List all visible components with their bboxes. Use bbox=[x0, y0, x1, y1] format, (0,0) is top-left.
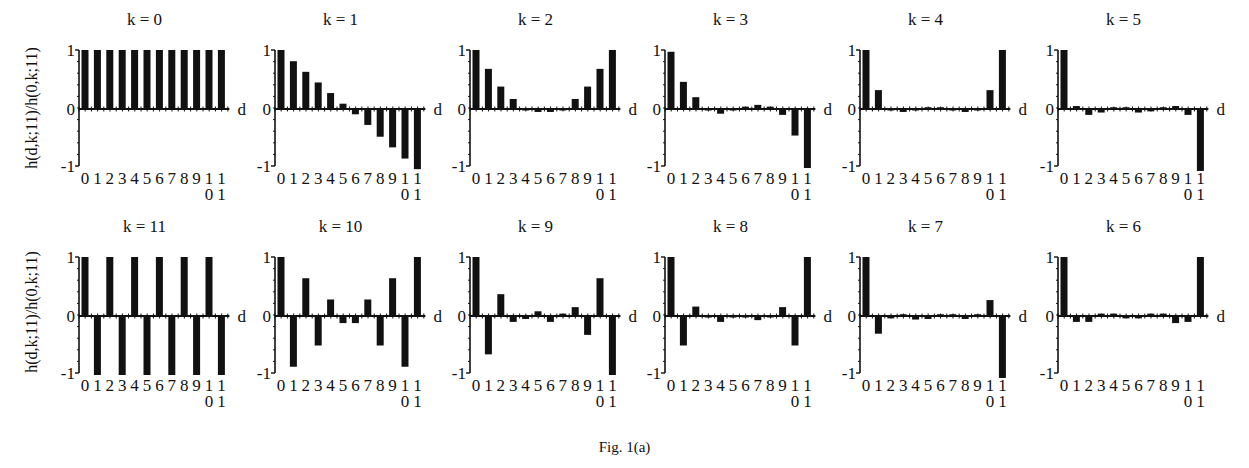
bar-d2 bbox=[302, 72, 309, 109]
bar-d0 bbox=[278, 257, 285, 316]
x-tick-label: 9 bbox=[973, 376, 982, 395]
x-tick-label: 1 bbox=[413, 392, 422, 411]
x-tick-label: 0 bbox=[667, 169, 676, 188]
x-tick-label: 7 bbox=[754, 169, 763, 188]
bar-d7 bbox=[168, 316, 175, 375]
bar-d9 bbox=[584, 87, 591, 109]
bar-d0 bbox=[863, 257, 870, 316]
x-tick-label: 1 bbox=[1072, 169, 1081, 188]
panel-k0: k = 010-1d01234567891101 bbox=[47, 10, 242, 210]
bar-d8 bbox=[377, 109, 384, 137]
bar-d2 bbox=[106, 50, 113, 109]
x-tick-label: 5 bbox=[339, 376, 348, 395]
x-tick-label: 8 bbox=[376, 376, 385, 395]
x-tick-label: 4 bbox=[716, 169, 725, 188]
bar-d11 bbox=[1197, 257, 1204, 316]
y-tick-label: 1 bbox=[653, 41, 662, 60]
bar-d2 bbox=[497, 87, 504, 109]
x-tick-label: 8 bbox=[766, 376, 775, 395]
x-tick-label: 7 bbox=[364, 376, 373, 395]
x-tick-label: 8 bbox=[571, 169, 580, 188]
bar-d9 bbox=[193, 316, 200, 375]
y-tick-label: 0 bbox=[67, 100, 76, 119]
x-tick-label: 8 bbox=[1159, 169, 1168, 188]
x-tick-label: 0 bbox=[986, 185, 995, 204]
bar-d6 bbox=[156, 257, 163, 316]
x-tick-label: 8 bbox=[180, 376, 189, 395]
x-tick-label: 0 bbox=[1184, 392, 1193, 411]
bar-d11 bbox=[609, 316, 616, 375]
y-tick-label: 0 bbox=[653, 100, 662, 119]
x-tick-label: 2 bbox=[302, 376, 311, 395]
bar-d9 bbox=[584, 316, 591, 335]
x-tick-label: 1 bbox=[608, 392, 617, 411]
bar-d10 bbox=[792, 109, 799, 136]
x-tick-label: 5 bbox=[924, 169, 933, 188]
bar-d4 bbox=[131, 257, 138, 316]
x-tick-label: 5 bbox=[534, 169, 543, 188]
bar-d2 bbox=[106, 257, 113, 316]
y-tick-label: 1 bbox=[848, 248, 857, 267]
y-tick-label: 1 bbox=[1046, 41, 1055, 60]
x-tick-label: 0 bbox=[986, 392, 995, 411]
x-tick-label: 1 bbox=[289, 169, 298, 188]
x-tick-label: 7 bbox=[949, 169, 958, 188]
x-tick-label: 3 bbox=[314, 376, 323, 395]
panel-k7: k = 710-1d01234567891101 bbox=[828, 217, 1023, 417]
x-tick-label: 1 bbox=[93, 376, 102, 395]
bar-d11 bbox=[804, 257, 811, 316]
x-tick-label: 7 bbox=[559, 169, 568, 188]
x-tick-label: 2 bbox=[692, 169, 701, 188]
x-tick-label: 9 bbox=[192, 376, 201, 395]
bar-d9 bbox=[389, 278, 396, 316]
x-tick-label: 2 bbox=[692, 376, 701, 395]
y-tick-label: -1 bbox=[842, 157, 856, 176]
y-tick-label: 0 bbox=[1046, 100, 1055, 119]
x-tick-label: 6 bbox=[546, 376, 555, 395]
x-axis-label: d bbox=[1216, 100, 1225, 119]
x-tick-label: 0 bbox=[81, 376, 90, 395]
x-tick-label: 1 bbox=[1196, 185, 1205, 204]
x-tick-label: 0 bbox=[1184, 185, 1193, 204]
bar-d9 bbox=[193, 50, 200, 109]
bar-d9 bbox=[389, 109, 396, 147]
y-tick-label: -1 bbox=[1040, 157, 1054, 176]
y-axis-label-bottom: h(d,k;11)/h(0,k;11) bbox=[22, 212, 42, 412]
x-tick-label: 4 bbox=[326, 169, 335, 188]
x-tick-label: 1 bbox=[484, 169, 493, 188]
x-tick-label: 6 bbox=[1134, 169, 1143, 188]
bar-d8 bbox=[377, 316, 384, 346]
y-tick-label: -1 bbox=[1040, 364, 1054, 383]
x-tick-label: 1 bbox=[217, 392, 226, 411]
bar-d1 bbox=[485, 316, 492, 354]
y-tick-label: 0 bbox=[263, 307, 272, 326]
bar-d1 bbox=[875, 316, 882, 334]
x-tick-label: 6 bbox=[936, 376, 945, 395]
bar-d7 bbox=[168, 50, 175, 109]
bar-d3 bbox=[119, 316, 126, 375]
panel-k5: k = 510-1d01234567891101 bbox=[1026, 10, 1221, 210]
x-tick-label: 9 bbox=[388, 169, 397, 188]
x-tick-label: 0 bbox=[596, 185, 605, 204]
x-tick-label: 0 bbox=[791, 392, 800, 411]
x-tick-label: 3 bbox=[704, 169, 713, 188]
x-tick-label: 2 bbox=[1085, 169, 1094, 188]
panel-k6: k = 610-1d01234567891101 bbox=[1026, 217, 1221, 417]
bar-d8 bbox=[181, 257, 188, 316]
x-tick-label: 4 bbox=[130, 376, 139, 395]
x-tick-label: 3 bbox=[118, 376, 127, 395]
x-tick-label: 0 bbox=[862, 169, 871, 188]
x-tick-label: 7 bbox=[168, 169, 177, 188]
x-tick-label: 0 bbox=[205, 392, 214, 411]
bar-d1 bbox=[290, 316, 297, 367]
x-tick-label: 0 bbox=[205, 185, 214, 204]
y-tick-label: 1 bbox=[1046, 248, 1055, 267]
x-tick-label: 0 bbox=[667, 376, 676, 395]
bar-d1 bbox=[680, 82, 687, 109]
y-tick-label: -1 bbox=[647, 157, 661, 176]
y-tick-label: 0 bbox=[263, 100, 272, 119]
x-tick-label: 0 bbox=[277, 169, 286, 188]
x-tick-label: 2 bbox=[302, 169, 311, 188]
y-tick-label: 0 bbox=[653, 307, 662, 326]
x-tick-label: 8 bbox=[961, 169, 970, 188]
